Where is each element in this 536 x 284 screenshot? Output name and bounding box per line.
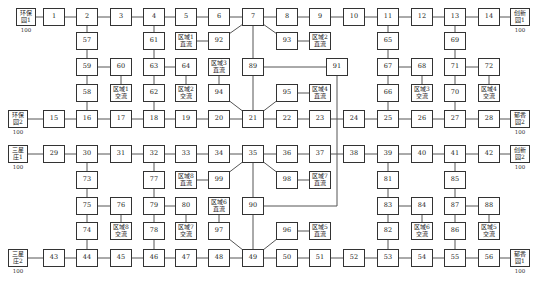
node-src2: 环保 园2 — [8, 110, 28, 128]
node-26: 26 — [411, 110, 433, 128]
node-8: 8 — [276, 8, 298, 26]
node-3: 3 — [110, 8, 132, 26]
node-35: 35 — [242, 145, 264, 163]
node-27: 27 — [444, 110, 466, 128]
node-55: 55 — [444, 249, 466, 267]
node-44: 44 — [76, 249, 98, 267]
node-60: 60 — [110, 58, 132, 76]
node-28: 28 — [478, 110, 500, 128]
node-z4dc: 区域4 直流 — [309, 84, 331, 102]
node-2: 2 — [76, 8, 98, 26]
node-91: 91 — [326, 58, 348, 76]
node-z8ac: 区域8 交流 — [110, 222, 132, 240]
node-20: 20 — [208, 110, 230, 128]
node-z5ac: 区域5 交流 — [478, 222, 500, 240]
node-62: 62 — [143, 84, 165, 102]
node-30: 30 — [76, 145, 98, 163]
node-z2dc: 区域2 直流 — [309, 32, 331, 50]
node-98: 98 — [276, 171, 298, 189]
node-78: 78 — [143, 222, 165, 240]
node-49: 49 — [242, 249, 264, 267]
node-6: 6 — [208, 8, 230, 26]
node-63: 63 — [143, 58, 165, 76]
node-81: 81 — [377, 171, 399, 189]
node-65: 65 — [377, 32, 399, 50]
node-72: 72 — [478, 58, 500, 76]
node-25: 25 — [377, 110, 399, 128]
node-39: 39 — [377, 145, 399, 163]
node-z4ac: 区域4 交流 — [478, 84, 500, 102]
node-15: 15 — [43, 110, 65, 128]
node-90: 90 — [242, 197, 264, 215]
node-93: 93 — [276, 32, 298, 50]
node-59: 59 — [76, 58, 98, 76]
node-12: 12 — [411, 8, 433, 26]
node-89: 89 — [242, 58, 264, 76]
node-87: 87 — [444, 197, 466, 215]
node-57: 57 — [76, 32, 98, 50]
node-capacity-label: 100 — [508, 129, 532, 135]
node-src3: 三星 庄1 — [8, 145, 28, 163]
node-96: 96 — [276, 222, 298, 240]
node-src4: 三星 庄2 — [8, 249, 28, 267]
node-19: 19 — [175, 110, 197, 128]
node-68: 68 — [411, 58, 433, 76]
node-capacity-label: 100 — [508, 164, 532, 170]
node-capacity-label: 100 — [6, 164, 30, 170]
node-src1: 环保 园1 — [16, 8, 36, 26]
node-capacity-label: 100 — [508, 268, 532, 274]
node-50: 50 — [276, 249, 298, 267]
node-86: 86 — [444, 222, 466, 240]
node-54: 54 — [411, 249, 433, 267]
node-capacity-label: 100 — [6, 268, 30, 274]
node-22: 22 — [276, 110, 298, 128]
node-48: 48 — [208, 249, 230, 267]
node-capacity-label: 100 — [6, 129, 30, 135]
node-11: 11 — [377, 8, 399, 26]
node-1: 1 — [43, 8, 65, 26]
node-dst1: 创新 园1 — [510, 8, 530, 26]
node-73: 73 — [76, 171, 98, 189]
node-23: 23 — [309, 110, 331, 128]
node-z8dc: 区域8 直流 — [175, 171, 197, 189]
node-80: 80 — [175, 197, 197, 215]
node-53: 53 — [377, 249, 399, 267]
node-58: 58 — [76, 84, 98, 102]
node-dst4: 郁香 园1 — [510, 249, 530, 267]
node-z6dc: 区域6 直流 — [208, 197, 230, 215]
node-67: 67 — [377, 58, 399, 76]
node-69: 69 — [444, 32, 466, 50]
node-capacity-label: 100 — [508, 27, 532, 33]
node-84: 84 — [411, 197, 433, 215]
node-97: 97 — [208, 222, 230, 240]
node-17: 17 — [110, 110, 132, 128]
node-18: 18 — [143, 110, 165, 128]
node-70: 70 — [444, 84, 466, 102]
node-z2ac: 区域2 交流 — [175, 84, 197, 102]
node-77: 77 — [143, 171, 165, 189]
node-95: 95 — [276, 84, 298, 102]
node-21: 21 — [242, 110, 264, 128]
node-43: 43 — [43, 249, 65, 267]
node-13: 13 — [444, 8, 466, 26]
node-46: 46 — [143, 249, 165, 267]
node-82: 82 — [377, 222, 399, 240]
node-dst3: 创新 园2 — [510, 145, 530, 163]
node-85: 85 — [444, 171, 466, 189]
node-66: 66 — [377, 84, 399, 102]
node-31: 31 — [110, 145, 132, 163]
node-56: 56 — [478, 249, 500, 267]
node-83: 83 — [377, 197, 399, 215]
node-z3dc: 区域3 直流 — [208, 58, 230, 76]
node-38: 38 — [343, 145, 365, 163]
node-29: 29 — [43, 145, 65, 163]
node-4: 4 — [143, 8, 165, 26]
node-32: 32 — [143, 145, 165, 163]
node-94: 94 — [208, 84, 230, 102]
node-40: 40 — [411, 145, 433, 163]
node-52: 52 — [343, 249, 365, 267]
node-42: 42 — [478, 145, 500, 163]
node-14: 14 — [478, 8, 500, 26]
node-41: 41 — [444, 145, 466, 163]
node-61: 61 — [143, 32, 165, 50]
